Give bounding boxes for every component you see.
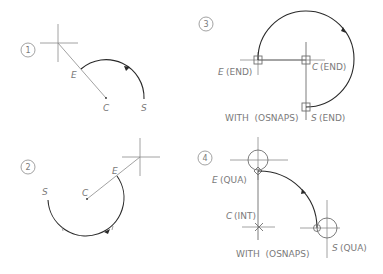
end-snap-label: (END) xyxy=(226,67,252,77)
start-label: S xyxy=(311,113,317,123)
intersection-snap-marker-icon xyxy=(242,223,275,231)
tick-mark xyxy=(112,226,113,230)
crosshair-cursor-icon xyxy=(122,138,160,176)
panel-number: 2 xyxy=(25,163,30,172)
arc xyxy=(258,171,317,228)
panel-number: 1 xyxy=(25,46,30,55)
crosshair-cursor-icon xyxy=(40,24,78,62)
end-label: E xyxy=(112,166,118,176)
center-label: C xyxy=(103,103,110,113)
start-label: S xyxy=(42,187,48,197)
panel-3: 3 E (END) C (END) S (END) WITH (OSNAPS) xyxy=(199,11,354,123)
end-label: E xyxy=(71,70,77,80)
center-snap-label: (END) xyxy=(320,62,346,72)
end-label: E xyxy=(218,67,224,77)
panel-1: 1 E C S xyxy=(21,24,147,113)
arc-construction-diagram: 1 E C S 2 E C S 3 xyxy=(0,0,383,274)
panel-number: 4 xyxy=(202,154,207,163)
rubber-band-line xyxy=(58,43,106,98)
center-label: C xyxy=(82,188,89,198)
center-snap-label: (INT) xyxy=(234,211,256,221)
panel-4: 4 E (QUA) C (INT) S (QU xyxy=(198,137,367,259)
center-label: C xyxy=(312,62,319,72)
panel-2: 2 E C S xyxy=(21,138,160,236)
start-snap-label: (END) xyxy=(319,113,345,123)
rubber-band-line xyxy=(87,157,140,199)
center-point xyxy=(86,198,88,200)
start-label: S xyxy=(332,243,338,253)
caption: WITH (OSNAPS) xyxy=(225,113,298,123)
panel-number: 3 xyxy=(203,20,208,29)
start-snap-label: (QUA) xyxy=(340,243,367,253)
center-point xyxy=(105,97,107,99)
caption: WITH (OSNAPS) xyxy=(236,249,309,259)
center-label: C xyxy=(226,211,233,221)
start-label: S xyxy=(141,103,147,113)
arc xyxy=(81,60,144,99)
end-snap-label: (QUA) xyxy=(220,175,247,185)
end-label: E xyxy=(212,175,218,185)
arc-direction-arrow-icon xyxy=(341,27,346,33)
